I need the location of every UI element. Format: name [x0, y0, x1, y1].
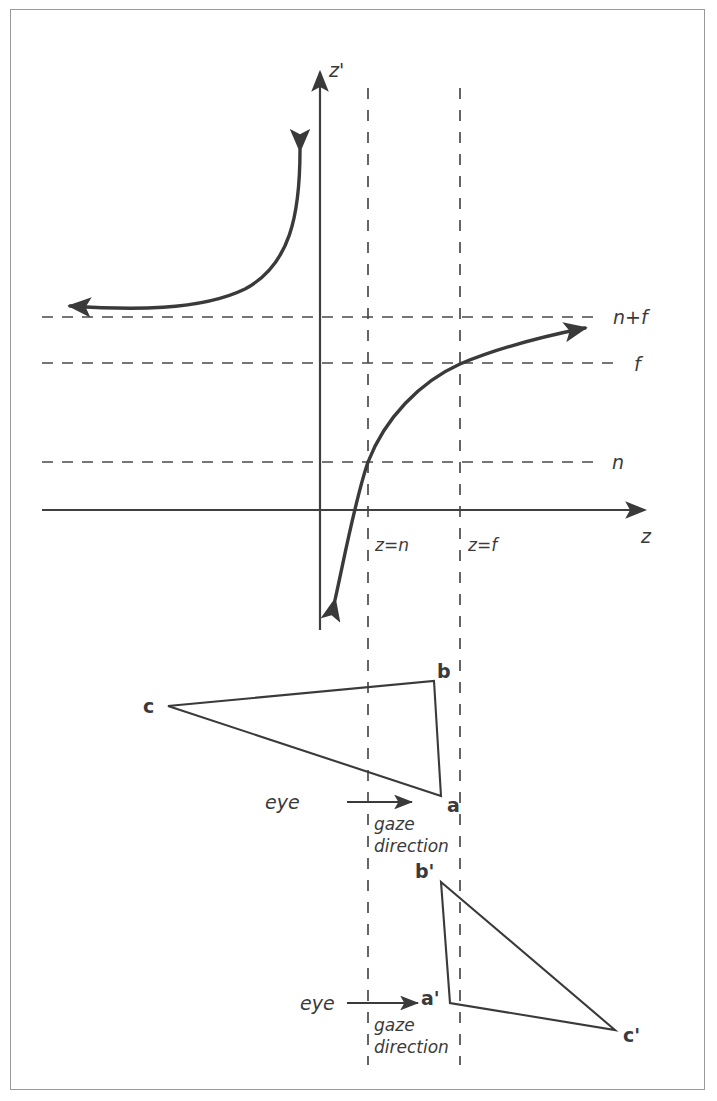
- vertex-label-c: c: [143, 695, 154, 717]
- label-z-equals-n: z=n: [374, 535, 409, 555]
- x-axis-label: z: [640, 525, 652, 547]
- eye-label-upper: eye: [265, 791, 300, 813]
- diagram-canvas: z' z n+f f n z=n z=f c b a eye gaze dire…: [0, 0, 717, 1101]
- y-axis-label: z': [328, 59, 344, 81]
- label-f: f: [634, 353, 644, 375]
- vertex-label-b-prime: b': [415, 860, 434, 882]
- eye-label-lower: eye: [300, 992, 335, 1014]
- gaze-label-lower-line1: gaze: [374, 1015, 415, 1035]
- figure-root: z' z n+f f n z=n z=f c b a eye gaze dire…: [0, 0, 717, 1101]
- lower-triangle: [441, 882, 615, 1030]
- vertex-label-a: a: [447, 794, 460, 816]
- gaze-label-upper-line1: gaze: [374, 814, 415, 834]
- gaze-label-upper-line2: direction: [374, 836, 449, 856]
- label-z-equals-f: z=f: [467, 535, 500, 555]
- vertex-label-c-prime: c': [623, 1024, 640, 1046]
- gaze-label-lower-line2: direction: [374, 1037, 449, 1057]
- label-n: n: [612, 451, 624, 473]
- curve-left-branch: [70, 150, 300, 308]
- label-n-plus-f: n+f: [613, 306, 651, 328]
- upper-triangle: [168, 681, 441, 796]
- vertex-label-b: b: [437, 660, 451, 682]
- vertex-label-a-prime: a': [421, 987, 440, 1009]
